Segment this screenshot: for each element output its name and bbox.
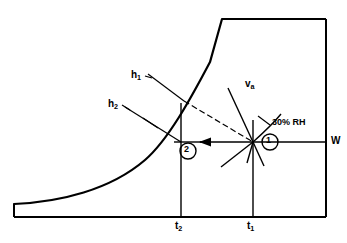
relative-humidity-leader — [258, 116, 270, 125]
humidity-ratio-axis-label: W — [331, 136, 340, 146]
x-axis-label-t2: t2 — [175, 221, 182, 231]
enthalpy-h2-subscript: 2 — [114, 102, 118, 111]
wet-bulb-line-through-state-1 — [221, 142, 253, 167]
enthalpy-h1-subscript: 1 — [137, 73, 141, 82]
enthalpy-h1-label: h1 — [131, 70, 141, 80]
state-point-1-label: 1 — [266, 136, 271, 145]
state-point-2-label: 2 — [184, 145, 189, 154]
enthalpy-line-h2-extension — [143, 118, 158, 128]
psychrometric-chart-figure: h1 h2 va 30% RH W t2 t1 1 2 — [0, 0, 347, 243]
enthalpy-line-h1 — [148, 74, 184, 101]
relative-humidity-label: 30% RH — [272, 118, 306, 127]
x-axis-label-t1-subscript: 1 — [250, 224, 254, 233]
x-axis-label-t1: t1 — [247, 221, 254, 231]
specific-volume-subscript: a — [251, 82, 255, 91]
h2-label-leader — [122, 105, 130, 110]
specific-volume-base: v — [245, 78, 251, 89]
specific-volume-label: va — [245, 79, 255, 89]
saturation-curve — [14, 19, 222, 204]
enthalpy-line-h1-dashed — [184, 101, 253, 142]
x-axis-label-t2-subscript: 2 — [178, 224, 182, 233]
enthalpy-h2-label: h2 — [108, 99, 118, 109]
